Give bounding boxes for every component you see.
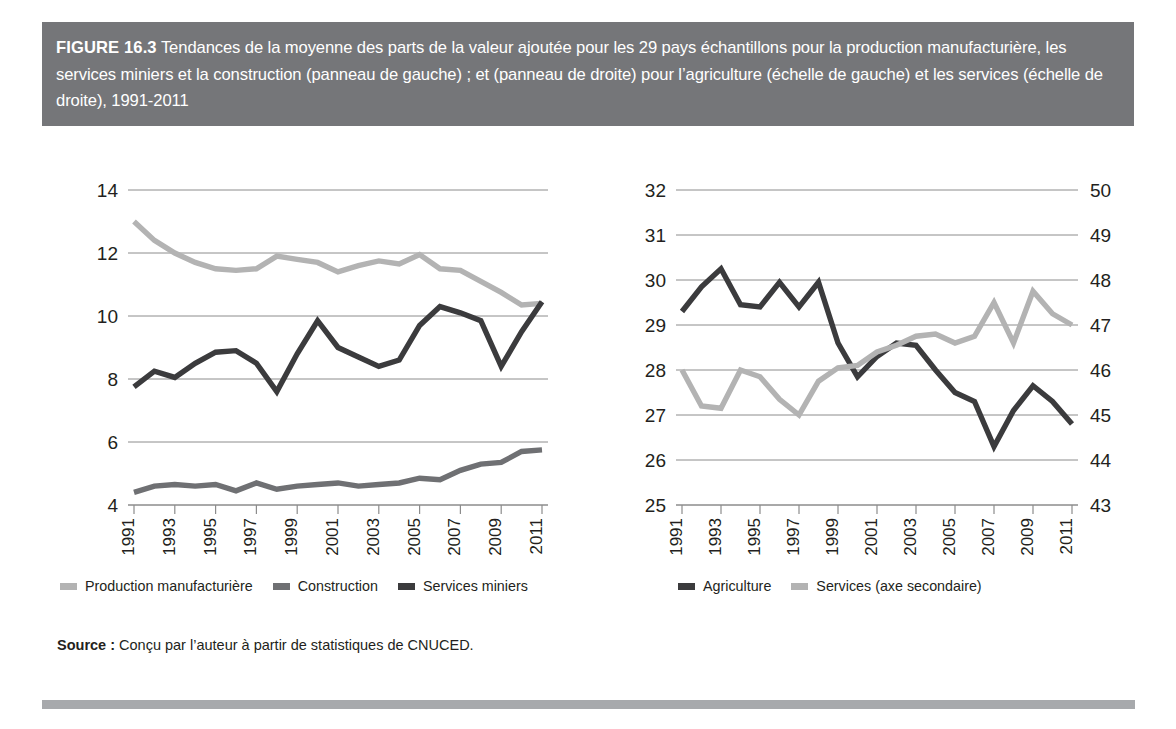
legend-swatch-icon	[678, 583, 695, 590]
right-panel-plot: 2526272829303132434445464748495019911993…	[582, 140, 1134, 620]
y-axis-tick-label: 8	[107, 369, 118, 390]
series-line	[134, 450, 542, 493]
y-axis-tick-label: 4	[107, 495, 118, 516]
legend-right-entry[interactable]: Services (axe secondaire)	[791, 578, 981, 594]
y-axis-secondary-tick-label: 48	[1090, 270, 1111, 291]
x-axis-tick-label: 2007	[445, 518, 464, 556]
x-axis-tick-label: 2001	[323, 518, 342, 556]
x-axis-tick-label: 2005	[405, 518, 424, 556]
x-axis-tick-label: 2003	[901, 518, 920, 556]
y-axis-tick-label: 26	[645, 450, 666, 471]
series-line	[134, 222, 542, 305]
legend-left-entry[interactable]: Production manufacturière	[60, 578, 253, 594]
x-axis-tick-label: 1999	[282, 518, 301, 556]
x-axis-tick-label: 1995	[745, 518, 764, 556]
bottom-rule	[42, 700, 1135, 709]
x-axis-tick-label: 1997	[241, 518, 260, 556]
x-axis-tick-label: 2001	[862, 518, 881, 556]
figure-caption: Tendances de la moyenne des parts de la …	[56, 38, 1103, 110]
y-axis-tick-label: 6	[107, 432, 118, 453]
source-line: Source : Conçu par l’auteur à partir de …	[57, 636, 474, 654]
left-panel-plot: 4681012141991199319951997199920012003200…	[42, 140, 582, 620]
chart-panel-left: 4681012141991199319951997199920012003200…	[42, 140, 582, 620]
y-axis-tick-label: 14	[97, 180, 119, 201]
legend-label: Services (axe secondaire)	[816, 578, 981, 594]
y-axis-tick-label: 30	[645, 270, 666, 291]
legend-swatch-icon	[60, 583, 77, 590]
legend-label: Agriculture	[703, 578, 771, 594]
y-axis-tick-label: 25	[645, 495, 666, 516]
legend-swatch-icon	[273, 583, 290, 590]
x-axis-tick-label: 1991	[667, 518, 686, 556]
figure-container: FIGURE 16.3 Tendances de la moyenne des …	[0, 0, 1176, 729]
legend-swatch-icon	[398, 583, 415, 590]
figure-title-text: FIGURE 16.3 Tendances de la moyenne des …	[56, 35, 1114, 115]
charts-area: 4681012141991199319951997199920012003200…	[42, 140, 1134, 620]
x-axis-tick-label: 2011	[1057, 518, 1076, 555]
figure-number-label: FIGURE 16.3	[56, 38, 157, 57]
x-axis-tick-label: 1991	[119, 518, 138, 556]
x-axis-tick-label: 2007	[979, 518, 998, 556]
y-axis-tick-label: 32	[645, 180, 666, 201]
y-axis-tick-label: 29	[645, 315, 666, 336]
x-axis-tick-label: 2009	[486, 518, 505, 556]
source-text: Conçu par l’auteur à partir de statistiq…	[115, 637, 474, 653]
y-axis-secondary-tick-label: 45	[1090, 405, 1111, 426]
y-axis-tick-label: 12	[97, 243, 118, 264]
x-axis-tick-label: 2005	[940, 518, 959, 556]
legend-label: Construction	[298, 578, 378, 594]
legend-right-entry[interactable]: Agriculture	[678, 578, 771, 594]
chart-panel-right: 2526272829303132434445464748495019911993…	[582, 140, 1134, 620]
y-axis-secondary-tick-label: 44	[1090, 450, 1112, 471]
y-axis-tick-label: 27	[645, 405, 666, 426]
series-line	[682, 269, 1072, 447]
x-axis-tick-label: 2009	[1018, 518, 1037, 556]
y-axis-secondary-tick-label: 49	[1090, 225, 1111, 246]
legend-label: Production manufacturière	[85, 578, 253, 594]
x-axis-tick-label: 1995	[201, 518, 220, 556]
y-axis-tick-label: 31	[645, 225, 666, 246]
y-axis-tick-label: 28	[645, 360, 666, 381]
series-line	[134, 302, 542, 392]
y-axis-secondary-tick-label: 43	[1090, 495, 1111, 516]
x-axis-tick-label: 1997	[784, 518, 803, 556]
x-axis-tick-label: 1993	[706, 518, 725, 556]
legend-right: AgricultureServices (axe secondaire)	[678, 578, 1002, 594]
y-axis-secondary-tick-label: 46	[1090, 360, 1111, 381]
y-axis-tick-label: 10	[97, 306, 118, 327]
x-axis-tick-label: 1993	[160, 518, 179, 556]
legend-left-entry[interactable]: Construction	[273, 578, 378, 594]
source-label: Source :	[57, 637, 115, 653]
legend-left-entry[interactable]: Services miniers	[398, 578, 528, 594]
figure-title-bar: FIGURE 16.3 Tendances de la moyenne des …	[42, 22, 1134, 126]
x-axis-tick-label: 2003	[364, 518, 383, 556]
x-axis-tick-label: 2011	[527, 518, 546, 555]
y-axis-secondary-tick-label: 50	[1090, 180, 1111, 201]
legend-label: Services miniers	[423, 578, 528, 594]
y-axis-secondary-tick-label: 47	[1090, 315, 1111, 336]
x-axis-tick-label: 1999	[823, 518, 842, 556]
legend-left: Production manufacturièreConstructionSer…	[60, 578, 548, 594]
series-line	[682, 291, 1072, 415]
legend-swatch-icon	[791, 583, 808, 590]
